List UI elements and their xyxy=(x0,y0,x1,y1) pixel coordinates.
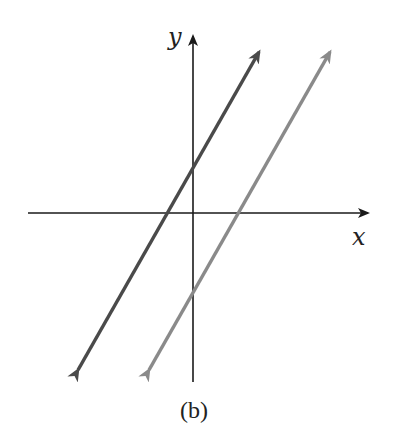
dark-line xyxy=(78,52,259,370)
figure-caption: (b) xyxy=(180,397,208,423)
y-axis-label: y xyxy=(167,23,182,51)
gray-line xyxy=(149,52,330,370)
x-axis-label: x xyxy=(352,223,366,251)
graph-figure: y x (b) xyxy=(0,0,399,430)
